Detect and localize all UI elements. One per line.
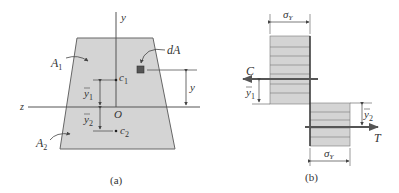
centroid-c2	[115, 130, 118, 133]
sigma-top-label: σY	[283, 8, 293, 22]
caption-b: (b)	[305, 171, 318, 184]
area-a2-label: A2	[35, 136, 47, 152]
area-a1-label: A1	[50, 56, 62, 72]
element-da	[137, 66, 144, 73]
compression-label: C	[246, 64, 255, 78]
ybar1-b-label: y1	[245, 86, 255, 101]
origin-label: O	[114, 108, 122, 120]
cross-section	[60, 38, 175, 149]
caption-a: (a)	[110, 174, 123, 187]
compression-block	[270, 36, 310, 104]
sigma-bottom-label: σY	[324, 147, 334, 161]
da-label: dA	[167, 43, 181, 57]
tension-block	[310, 103, 350, 146]
centroid-c1	[115, 79, 118, 82]
tension-label: T	[374, 131, 382, 145]
figure-a: y z O A1 A2 c1 c2 y1 y2 dA y	[19, 11, 200, 187]
plastic-moment-diagram: y z O A1 A2 c1 c2 y1 y2 dA y	[0, 0, 399, 193]
y-axis-label: y	[120, 11, 126, 23]
da-y-label: y	[189, 81, 195, 93]
ybar2-b-label: y2	[363, 108, 373, 123]
figure-b: σY C y1 T	[243, 8, 382, 184]
z-axis-label: z	[19, 101, 24, 112]
